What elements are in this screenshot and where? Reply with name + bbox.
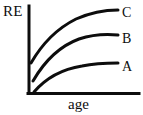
curve-c bbox=[31, 10, 118, 63]
series-label-b: B bbox=[122, 32, 131, 46]
figure-container: RE age C B A bbox=[0, 0, 143, 115]
series-label-c: C bbox=[122, 6, 131, 20]
curve-a bbox=[34, 63, 118, 92]
y-axis-label: RE bbox=[3, 4, 23, 19]
series-label-a: A bbox=[122, 60, 132, 74]
x-axis-label: age bbox=[68, 97, 89, 112]
